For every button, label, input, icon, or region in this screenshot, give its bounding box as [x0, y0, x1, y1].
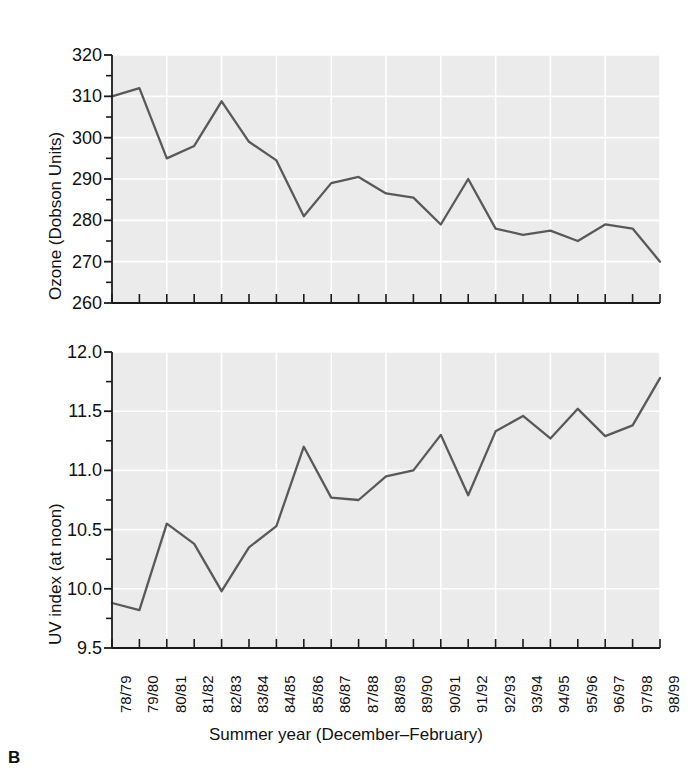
panel-label: B: [8, 748, 20, 768]
x-axis-tick-label: 79/80: [145, 675, 160, 713]
y-axis-tick-label: 260: [46, 294, 102, 312]
x-axis-tick-label: 86/87: [337, 675, 352, 713]
y-axis-tick-label: 10.0: [46, 580, 102, 598]
x-axis-tick-label: 97/98: [639, 675, 654, 713]
y-axis-tick-label: 280: [46, 211, 102, 229]
x-axis-tick-label: 87/88: [365, 675, 380, 713]
x-axis-tick-label: 94/95: [556, 675, 571, 713]
x-axis-tick-label: 78/79: [118, 675, 133, 713]
x-axis-tick-label: 81/82: [200, 675, 215, 713]
x-axis-tick-label: 83/84: [255, 675, 270, 713]
x-axis-tick-label: 92/93: [502, 675, 517, 713]
y-axis-tick-label: 290: [46, 170, 102, 188]
x-axis-tick-label: 88/89: [392, 675, 407, 713]
x-axis-tick-label: 80/81: [173, 675, 188, 713]
x-axis-tick-label: 89/90: [419, 675, 434, 713]
y-axis-tick-label: 11.5: [46, 402, 102, 420]
x-axis-tick-label: 98/99: [666, 675, 681, 713]
x-axis-tick-label: 91/92: [474, 675, 489, 713]
y-axis-tick-label: 270: [46, 253, 102, 271]
x-axis-tick-label: 96/97: [611, 675, 626, 713]
y-axis-tick-label: 11.0: [46, 461, 102, 479]
y-axis-tick-label: 320: [46, 46, 102, 64]
ozone-plot-area: [104, 48, 664, 308]
x-axis-tick-label: 85/86: [310, 675, 325, 713]
y-axis-tick-label: 9.5: [46, 639, 102, 657]
y-axis-tick-label: 12.0: [46, 343, 102, 361]
x-axis-tick-label: 93/94: [529, 675, 544, 713]
y-axis-tick-label: 300: [46, 129, 102, 147]
x-axis-title: Summer year (December–February): [0, 725, 692, 745]
x-axis-tick-label: 95/96: [584, 675, 599, 713]
x-axis-tick-label: 90/91: [447, 675, 462, 713]
figure-panel-b: Ozone (Dobson Units) 2602702802903003103…: [0, 0, 692, 778]
x-axis-tick-label: 84/85: [282, 675, 297, 713]
y-axis-tick-label: 10.5: [46, 521, 102, 539]
y-axis-tick-label: 310: [46, 87, 102, 105]
x-axis-tick-label: 82/83: [228, 675, 243, 713]
uv-plot-area: [104, 344, 664, 654]
